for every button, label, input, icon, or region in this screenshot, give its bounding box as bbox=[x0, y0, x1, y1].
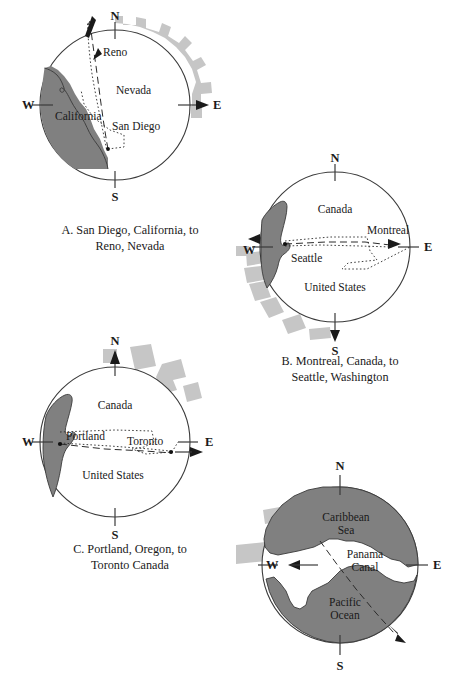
label-caribbean-sea-line2: Sea bbox=[338, 524, 355, 536]
compass-north-b: N bbox=[330, 151, 339, 165]
label-montreal: Montreal bbox=[367, 224, 409, 236]
compass-north-d: N bbox=[335, 459, 344, 473]
compass-south-d: S bbox=[337, 659, 344, 673]
caption-b: B. Montreal, Canada, to Seattle, Washing… bbox=[228, 353, 452, 385]
city-dot-toronto bbox=[169, 450, 173, 454]
figure-root: N S W E Reno Nevada California San Diego… bbox=[0, 0, 459, 683]
compass-south-a: S bbox=[112, 190, 119, 204]
label-united-states-b: United States bbox=[304, 281, 366, 293]
label-panama-canal-line1: Panama bbox=[347, 548, 383, 560]
panel-b-diagram: N S W E Canada Montreal Seattle United S… bbox=[230, 150, 450, 350]
label-pacific-ocean-line2: Ocean bbox=[330, 609, 360, 621]
label-nevada: Nevada bbox=[116, 84, 151, 96]
panel-c-diagram: N S W E Canada Portland Toronto United S… bbox=[20, 330, 240, 535]
compass-north-c: N bbox=[110, 334, 119, 348]
compass-north-a: N bbox=[110, 9, 119, 23]
city-dot-portland bbox=[58, 442, 62, 446]
caption-a: A. San Diego, California, to Reno, Nevad… bbox=[18, 222, 242, 254]
compass-east-a: E bbox=[213, 98, 221, 112]
label-canada-b: Canada bbox=[318, 203, 352, 215]
label-panama-canal-line2: Canal bbox=[352, 561, 379, 573]
panel-d-diagram: N S W E Caribbean Sea Panama Canal Pacif… bbox=[228, 455, 456, 680]
label-toronto: Toronto bbox=[127, 435, 163, 447]
compass-east-b: E bbox=[424, 240, 432, 254]
label-united-states-c: United States bbox=[82, 469, 144, 481]
compass-east-d: E bbox=[433, 558, 441, 572]
label-san-diego: San Diego bbox=[112, 120, 160, 133]
label-reno: Reno bbox=[103, 46, 128, 58]
compass-west-a: W bbox=[22, 98, 35, 112]
label-portland: Portland bbox=[66, 430, 105, 442]
caption-c: C. Portland, Oregon, to Toronto Canada bbox=[18, 541, 242, 573]
label-canada-c: Canada bbox=[98, 399, 132, 411]
compass-west-b: W bbox=[243, 243, 256, 257]
label-pacific-ocean-line1: Pacific bbox=[329, 596, 361, 608]
panel-a-diagram: N S W E Reno Nevada California San Diego bbox=[20, 8, 240, 208]
label-caribbean-sea-line1: Caribbean bbox=[322, 511, 370, 523]
label-california: California bbox=[55, 110, 102, 122]
compass-east-c: E bbox=[205, 435, 213, 449]
city-dot-san-diego bbox=[106, 147, 110, 151]
compass-west-c: W bbox=[22, 435, 35, 449]
city-dot-seattle bbox=[283, 242, 287, 246]
compass-west-d: W bbox=[266, 558, 279, 572]
compass-south-c: S bbox=[112, 528, 119, 542]
label-seattle: Seattle bbox=[291, 252, 322, 264]
